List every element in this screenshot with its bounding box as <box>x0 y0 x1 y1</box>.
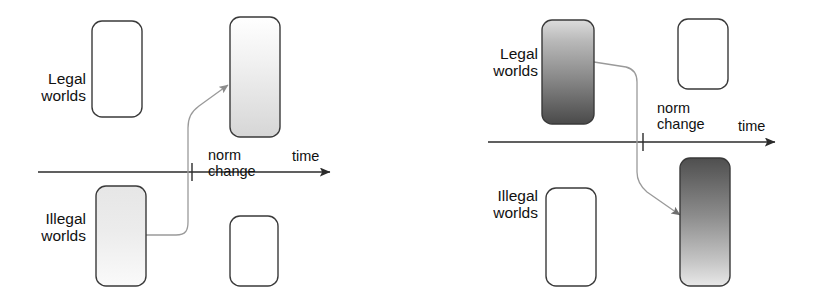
illegal-worlds-label-line1: Illegal <box>8 210 86 227</box>
transition-arrow <box>594 62 680 215</box>
illegal-worlds-label-line2: worlds <box>8 227 86 244</box>
left-panel-graphics <box>0 0 409 306</box>
norm-change-label-line2: change <box>208 163 256 179</box>
legal-worlds-label: Legal worlds <box>468 45 538 80</box>
norm-change-label-line1: norm <box>657 100 705 116</box>
illegal-worlds-label-line1: Illegal <box>460 187 538 204</box>
time-label: time <box>292 148 319 164</box>
legal-box-before <box>92 21 142 117</box>
legal-box-after <box>230 17 280 137</box>
legal-box-after <box>678 19 728 89</box>
illegal-box-after <box>680 158 730 286</box>
legal-worlds-label-line2: worlds <box>16 87 86 104</box>
illegal-box-after <box>230 216 278 286</box>
legal-worlds-label-line1: Legal <box>468 45 538 62</box>
figure-root: Legal worlds Illegal worlds norm change … <box>0 0 817 306</box>
illegal-worlds-label: Illegal worlds <box>460 187 538 222</box>
illegal-worlds-label-line2: worlds <box>460 204 538 221</box>
time-label: time <box>738 118 765 134</box>
time-axis <box>488 133 775 151</box>
legal-box-before <box>542 20 594 124</box>
illegal-box-before <box>96 186 146 286</box>
norm-change-label-line1: norm <box>208 147 256 163</box>
time-axis <box>38 163 330 181</box>
illegal-box-before <box>546 188 596 286</box>
norm-change-label: norm change <box>208 147 256 179</box>
legal-to-illegal-panel: Legal worlds Illegal worlds norm change … <box>408 0 817 306</box>
norm-change-label: norm change <box>657 100 705 132</box>
legal-worlds-label-line1: Legal <box>16 70 86 87</box>
illegal-to-legal-panel: Legal worlds Illegal worlds norm change … <box>0 0 409 306</box>
illegal-worlds-label: Illegal worlds <box>8 210 86 245</box>
legal-worlds-label-line2: worlds <box>468 62 538 79</box>
norm-change-label-line2: change <box>657 116 705 132</box>
legal-worlds-label: Legal worlds <box>16 70 86 105</box>
